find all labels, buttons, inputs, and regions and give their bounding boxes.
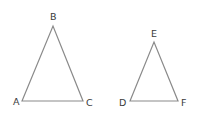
- triangles-diagram: A B C D E F: [0, 0, 203, 120]
- vertex-label-c: C: [86, 97, 93, 108]
- vertex-label-f: F: [181, 97, 186, 108]
- vertex-label-b: B: [50, 11, 57, 22]
- vertex-label-a: A: [13, 96, 20, 107]
- triangle-abc: [22, 26, 83, 101]
- vertex-label-d: D: [119, 97, 126, 108]
- triangle-def: [130, 42, 178, 101]
- vertex-label-e: E: [151, 28, 157, 39]
